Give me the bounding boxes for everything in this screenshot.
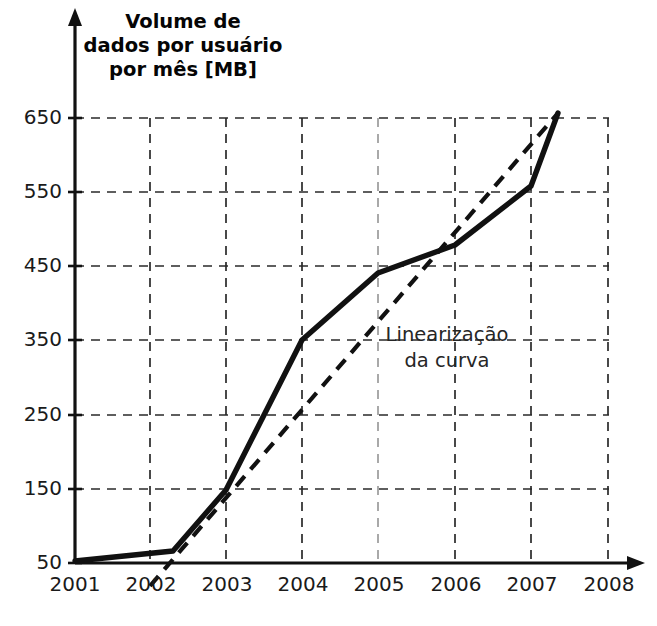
y-tick-label-350: 350	[6, 327, 62, 351]
x-tick-label-2007: 2007	[490, 572, 574, 596]
x-tick-label-2006: 2006	[414, 572, 498, 596]
y-tick-label-250: 250	[6, 402, 62, 426]
y-tick-label-150: 150	[6, 476, 62, 500]
annotation-line-1: Linearização	[372, 322, 522, 348]
y-tick-label-450: 450	[6, 253, 62, 277]
chart-canvas	[0, 0, 657, 626]
x-tick-label-2008: 2008	[567, 572, 651, 596]
y-axis-title-line-3: por mês [MB]	[78, 58, 288, 82]
y-tick-label-50: 50	[6, 550, 62, 574]
annotation-line-2: da curva	[372, 348, 522, 374]
y-axis-title: Volume de dados por usuário por mês [MB]	[78, 10, 288, 82]
x-tick-label-2003: 2003	[185, 572, 269, 596]
chart-figure: Volume de dados por usuário por mês [MB]…	[0, 0, 657, 626]
annotation-linearizacao: Linearização da curva	[372, 322, 522, 374]
y-tick-label-550: 550	[6, 179, 62, 203]
y-axis-title-line-1: Volume de	[78, 10, 288, 34]
x-tick-label-2004: 2004	[261, 572, 345, 596]
x-tick-label-2002: 2002	[109, 572, 193, 596]
y-tick-label-650: 650	[6, 105, 62, 129]
y-axis-title-line-2: dados por usuário	[78, 34, 288, 58]
x-tick-label-2005: 2005	[337, 572, 421, 596]
x-axis-arrow-icon	[627, 556, 645, 570]
x-tick-label-2001: 2001	[33, 572, 117, 596]
